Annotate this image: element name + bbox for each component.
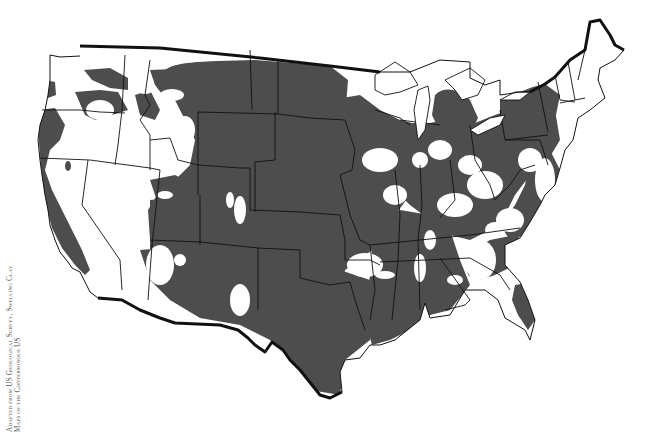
source-credit: Adapted from US Geological Survey, Swell… (6, 266, 22, 432)
credit-line-1: Adapted from US Geological Survey, Swell… (6, 266, 14, 432)
credit-line-2: Maps of the Conterminous US (14, 266, 22, 432)
us-swelling-clay-map (0, 0, 646, 443)
